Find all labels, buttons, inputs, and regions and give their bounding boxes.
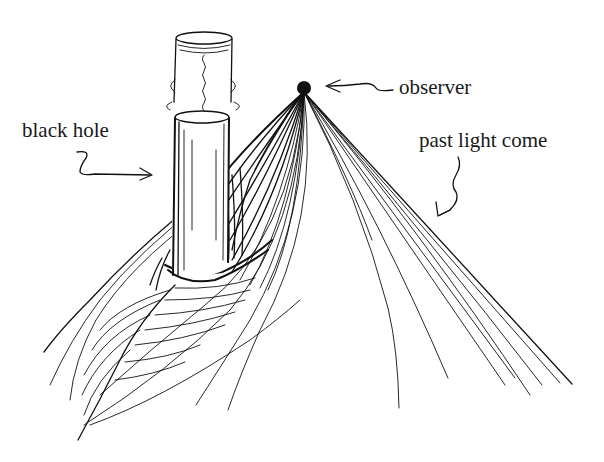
observer-label: observer: [399, 77, 471, 98]
past-light-cone-label: past light come: [419, 130, 547, 151]
light-cone-arrowhead: [436, 202, 450, 216]
black-hole-cylinder: [166, 32, 239, 277]
black-hole-arrow: [77, 152, 150, 175]
black-hole-arrowhead: [140, 168, 152, 180]
diagram-canvas: [0, 0, 604, 462]
light-cone-arrow: [440, 157, 460, 215]
observer-dot: [297, 81, 311, 95]
observer-arrow: [328, 84, 393, 91]
black-hole-label: black hole: [22, 120, 109, 141]
